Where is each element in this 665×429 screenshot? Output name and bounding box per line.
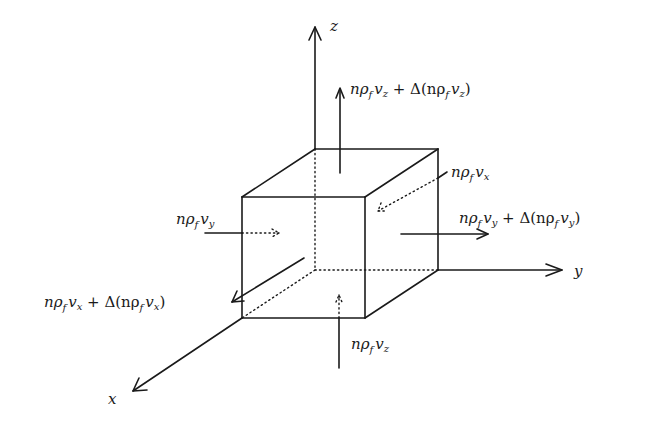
x-axis	[133, 318, 242, 391]
flux-y-in-label: nρfvy	[176, 210, 215, 230]
flux-z-out-arrow	[336, 88, 344, 173]
flux-y-out-arrow	[401, 229, 488, 239]
x-axis-label: x	[108, 390, 117, 408]
flux-z-in-label: nρfvz	[351, 335, 390, 355]
flux-z-out-label: nρfvz + Δ(nρfvz)	[350, 80, 471, 100]
y-axis-label: y	[573, 262, 583, 280]
z-axis	[309, 27, 321, 149]
y-axis	[438, 264, 562, 276]
flux-x-out-label: nρfvx + Δ(nρfvx)	[44, 293, 165, 313]
control-volume-diagram: z y x nρfvz + Δ(nρfvz) nρfvx nρfvy nρfvy…	[0, 0, 665, 429]
flux-y-out-label: nρfvy + Δ(nρfvy)	[459, 209, 580, 229]
z-axis-label: z	[329, 17, 338, 35]
flux-x-in-label: nρfvx	[451, 163, 490, 183]
flux-z-in-arrow	[336, 295, 342, 368]
flux-x-in-arrow	[378, 172, 447, 211]
